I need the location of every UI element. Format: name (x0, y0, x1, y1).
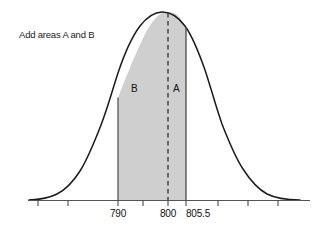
annotation-add-areas: Add areas A and B (19, 29, 94, 40)
region-label-a: A (173, 83, 180, 94)
shaded-region-area (118, 12, 186, 200)
region-label-b: B (131, 83, 138, 94)
normal-distribution-figure: Add areas A and B B A 790 800 805.5 (0, 0, 324, 228)
x-tick-label-790: 790 (104, 208, 132, 219)
x-axis-ticks (38, 201, 278, 207)
x-tick-label-805-5: 805.5 (179, 208, 217, 219)
x-tick-label-800: 800 (155, 208, 181, 219)
